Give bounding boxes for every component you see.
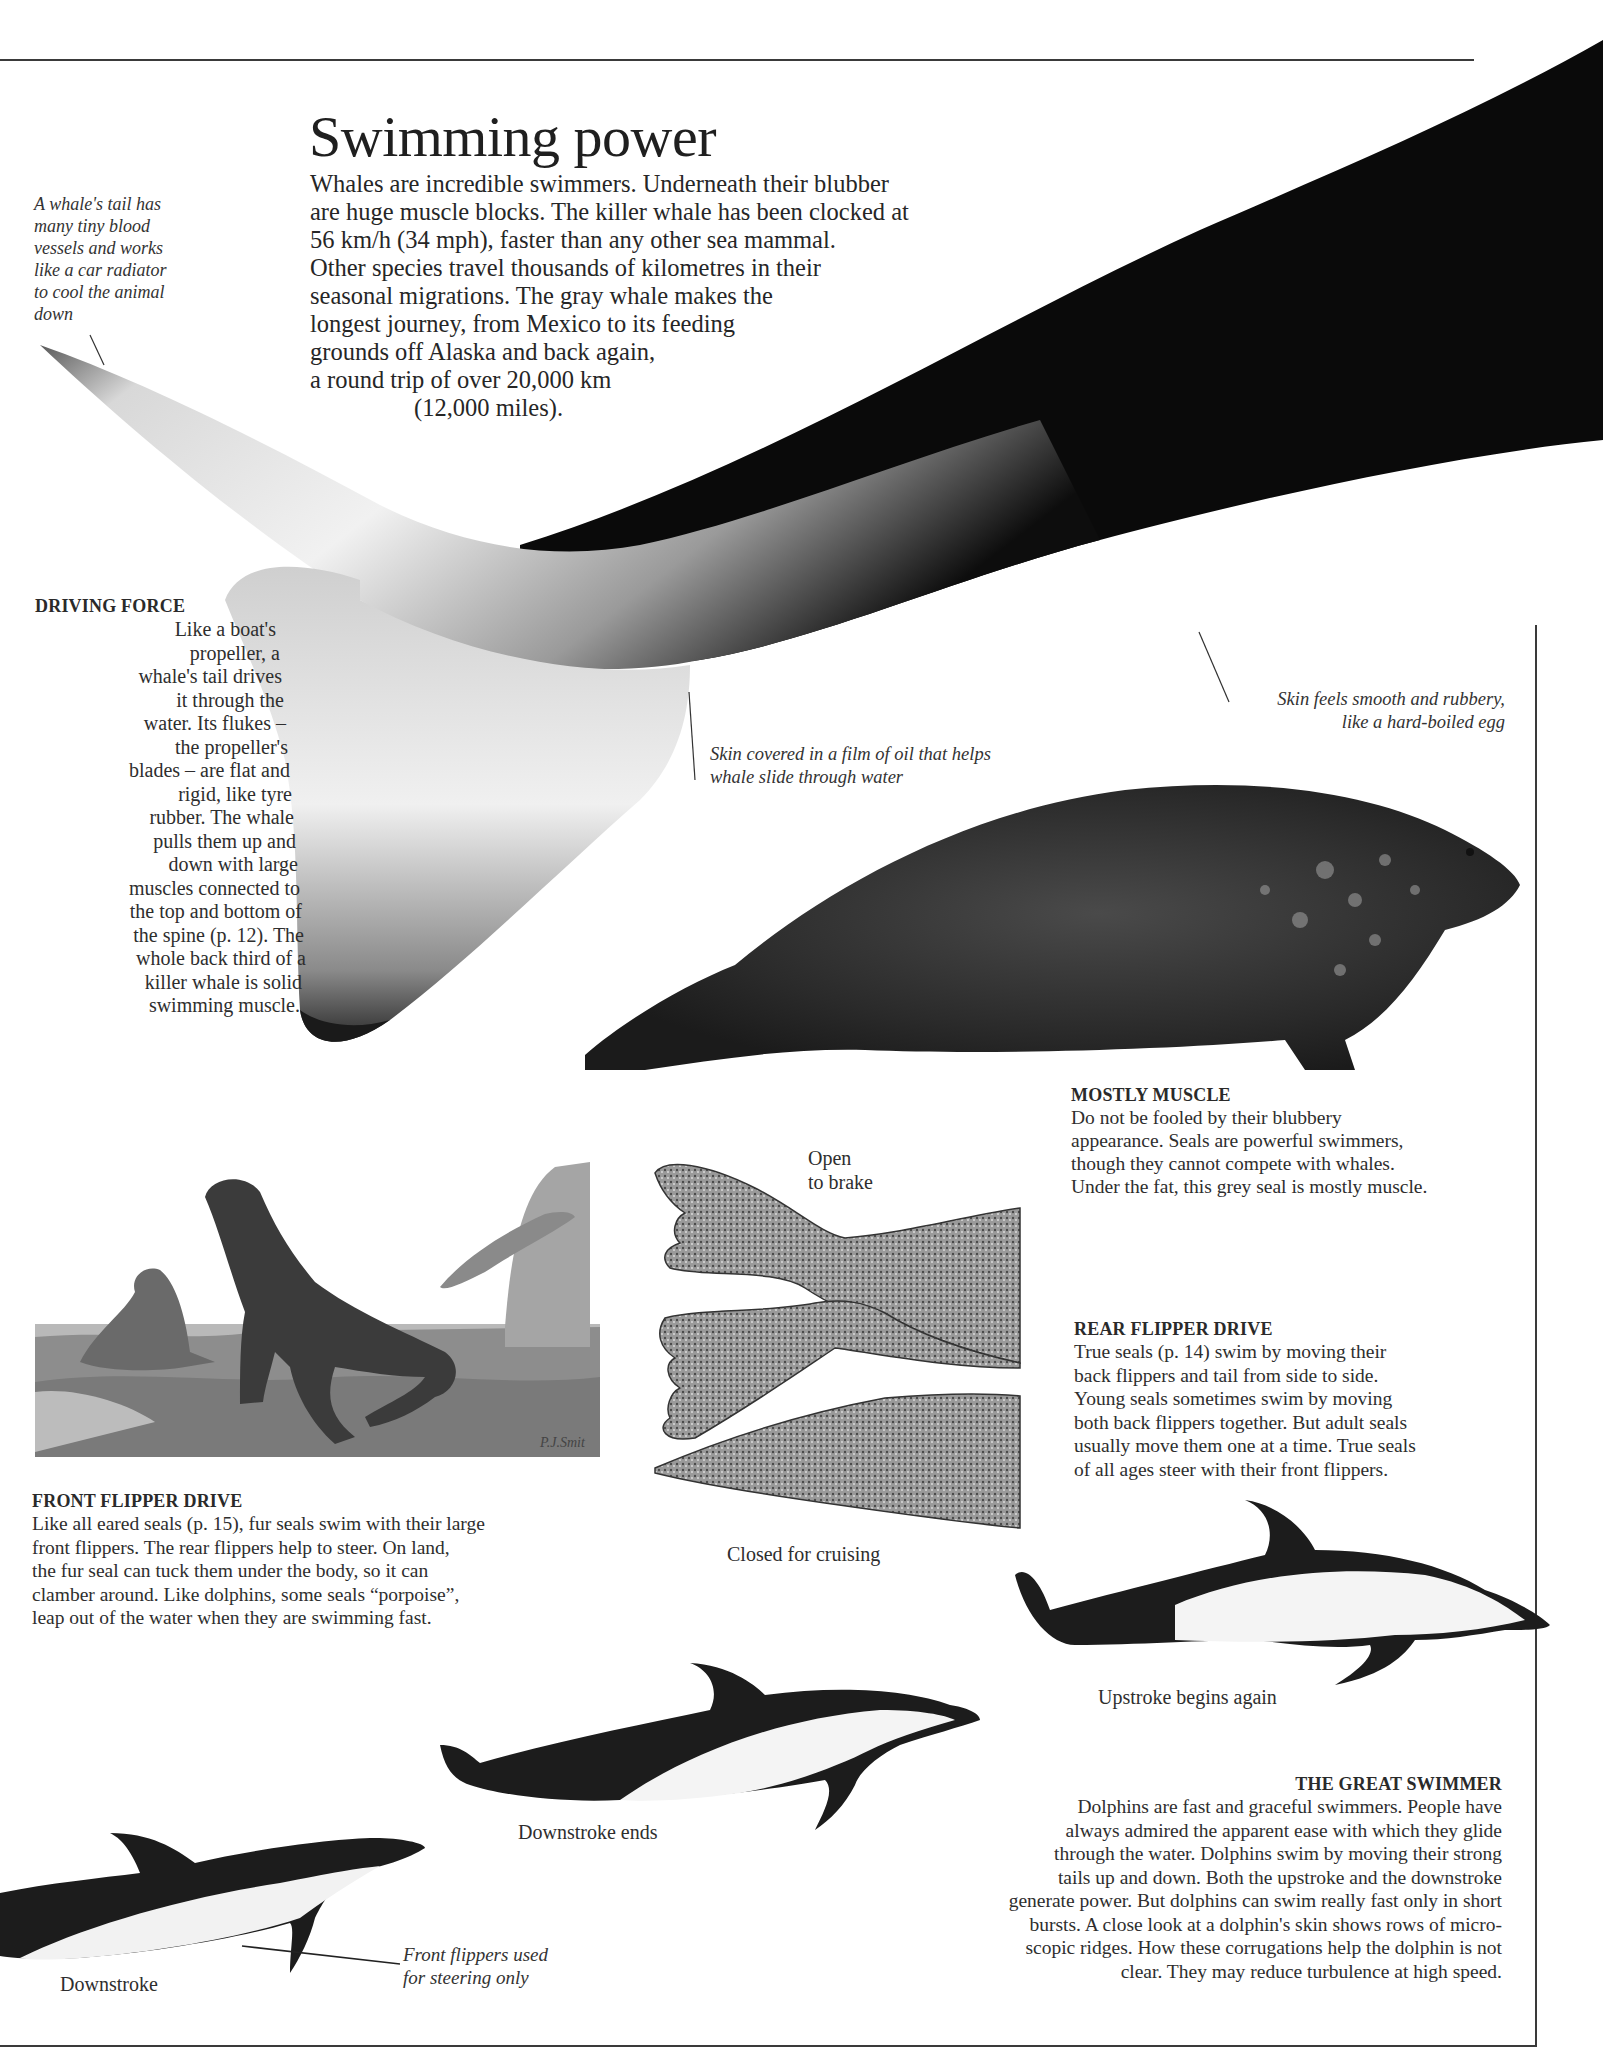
seal-icon — [565, 770, 1525, 1070]
dolphin-upstroke — [1005, 1495, 1565, 1695]
skin-smooth-caption: Skin feels smooth and rubbery, like a ha… — [1230, 688, 1505, 734]
intro-paragraph: Whales are incredible swimmers. Undernea… — [310, 170, 909, 422]
flippers-icon — [645, 1138, 1025, 1538]
intro-line: Whales are incredible swimmers. Undernea… — [310, 170, 909, 198]
great-swimmer-body: Dolphins are fast and graceful swimmers.… — [880, 1795, 1502, 1983]
front-flippers-steering-caption: Front flippers used for steering only — [403, 1943, 548, 1989]
upstroke-label: Upstroke begins again — [1098, 1685, 1277, 1709]
rear-flipper-drive-heading: REAR FLIPPER DRIVE — [1074, 1318, 1416, 1340]
fur-seals-icon: P.J.Smit — [35, 1152, 600, 1457]
driving-force-section: DRIVING FORCE Like a boat's propeller, a… — [30, 594, 270, 1018]
seal-flippers-illustration — [645, 1138, 1025, 1538]
intro-line: (12,000 miles). — [310, 394, 909, 422]
downstroke-label: Downstroke — [60, 1972, 158, 1996]
leader-line-skin-smooth — [1195, 630, 1235, 710]
front-flipper-drive-heading: FRONT FLIPPER DRIVE — [32, 1490, 485, 1512]
intro-line: seasonal migrations. The gray whale make… — [310, 282, 909, 310]
dolphin-icon — [1005, 1495, 1565, 1695]
grey-seal-photo — [565, 770, 1525, 1070]
front-flipper-drive-section: FRONT FLIPPER DRIVE Like all eared seals… — [32, 1490, 485, 1630]
intro-line: Other species travel thousands of kilome… — [310, 254, 909, 282]
page-title: Swimming power — [309, 108, 716, 166]
intro-line: are huge muscle blocks. The killer whale… — [310, 198, 909, 226]
front-flipper-drive-body: Like all eared seals (p. 15), fur seals … — [32, 1512, 485, 1630]
mostly-muscle-body: Do not be fooled by their blubbery appea… — [1071, 1106, 1427, 1198]
great-swimmer-section: THE GREAT SWIMMER Dolphins are fast and … — [880, 1773, 1502, 1983]
rear-flipper-drive-section: REAR FLIPPER DRIVE True seals (p. 14) sw… — [1074, 1318, 1416, 1481]
leader-line-front-flippers — [240, 1940, 410, 1970]
leader-line-tail — [0, 0, 200, 400]
painting-signature: P.J.Smit — [539, 1435, 586, 1450]
intro-line: longest journey, from Mexico to its feed… — [310, 310, 909, 338]
intro-line: 56 km/h (34 mph), faster than any other … — [310, 226, 909, 254]
great-swimmer-heading: THE GREAT SWIMMER — [880, 1773, 1502, 1795]
downstroke-ends-label: Downstroke ends — [518, 1820, 657, 1844]
intro-line: grounds off Alaska and back again, — [310, 338, 909, 366]
flipper-closed-label: Closed for cruising — [727, 1542, 880, 1566]
intro-line: a round trip of over 20,000 km — [310, 366, 909, 394]
bottom-rule — [0, 2045, 1537, 2047]
flipper-open-label: Open to brake — [808, 1146, 873, 1194]
mostly-muscle-section: MOSTLY MUSCLE Do not be fooled by their … — [1071, 1084, 1427, 1198]
mostly-muscle-heading: MOSTLY MUSCLE — [1071, 1084, 1427, 1106]
rear-flipper-drive-body: True seals (p. 14) swim by moving their … — [1074, 1340, 1416, 1481]
driving-force-heading: DRIVING FORCE — [30, 594, 270, 618]
driving-force-body: Like a boat's propeller, a whale's tail … — [30, 618, 270, 1018]
fur-seal-painting: P.J.Smit — [35, 1152, 600, 1457]
